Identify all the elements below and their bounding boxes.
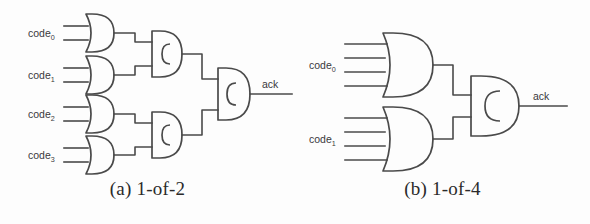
circuit-diagram-1-of-2: code0 code1 code2: [0, 0, 295, 180]
or-gate-1-body: [86, 56, 114, 94]
input-label-code0: code0: [28, 27, 55, 42]
input-group-code0: code0: [28, 26, 88, 42]
figure-container: code0 code1 code2: [0, 0, 590, 224]
input-label-code3: code3: [28, 149, 55, 164]
or-gate-1: [383, 107, 433, 171]
c-element-bottom-body: [152, 112, 182, 158]
c-element-top-glyph: [162, 44, 170, 64]
c-element-output-body: [218, 68, 250, 120]
or-gate-0: [86, 14, 114, 52]
c-element-output-body: [471, 76, 519, 136]
input-group-code1: code1: [28, 68, 88, 84]
input-label-code1: code1: [309, 133, 336, 148]
input-label-code1: code1: [28, 69, 55, 84]
or-gate-3-body: [86, 136, 114, 174]
wire-or2-to-c-bottom: [114, 114, 152, 123]
c-element-top: [152, 31, 182, 77]
or-gate-1: [86, 56, 114, 94]
panel-1-of-4: code0 code1: [295, 0, 590, 224]
wire-ctop-to-cout: [182, 54, 218, 79]
or-gate-0-body: [383, 33, 433, 97]
input-group-code1: code1: [309, 118, 387, 160]
c-element-output: [218, 68, 250, 120]
or-gate-1-body: [383, 107, 433, 171]
input-label-code2: code2: [28, 108, 55, 123]
input-group-code0: code0: [309, 44, 387, 86]
output-label-ack: ack: [533, 90, 550, 102]
or-gate-2: [86, 95, 114, 133]
input-group-code3: code3: [28, 148, 88, 164]
caption-1-of-4: (b) 1-of-4: [295, 178, 590, 200]
or-gate-3: [86, 136, 114, 174]
c-element-output-glyph: [227, 83, 236, 105]
input-label-code0: code0: [309, 59, 336, 74]
wire-or3-to-c-bottom: [114, 147, 152, 155]
wire-cbottom-to-cout: [182, 110, 218, 135]
input-group-code2: code2: [28, 107, 88, 123]
wire-or1-to-c: [433, 117, 471, 139]
wire-or0-to-c: [433, 65, 471, 95]
c-element-bottom-glyph: [162, 125, 170, 145]
c-element-bottom: [152, 112, 182, 158]
or-gate-2-body: [86, 95, 114, 133]
wire-or1-to-c-top: [114, 66, 152, 75]
panel-1-of-2: code0 code1 code2: [0, 0, 295, 224]
c-element-output-glyph: [485, 91, 500, 121]
c-element-output: [471, 76, 519, 136]
or-gate-0: [383, 33, 433, 97]
circuit-diagram-1-of-4: code0 code1: [295, 0, 590, 180]
caption-1-of-2: (a) 1-of-2: [0, 178, 295, 200]
or-gate-0-body: [86, 14, 114, 52]
wire-or0-to-c-top: [114, 33, 152, 42]
output-label-ack: ack: [262, 78, 279, 90]
c-element-top-body: [152, 31, 182, 77]
